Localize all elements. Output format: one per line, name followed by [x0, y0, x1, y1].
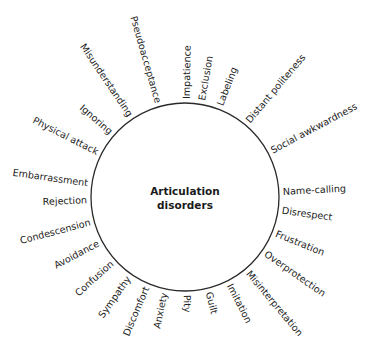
articulation-disorders-diagram: Articulation disorders ImpatienceExclusi… — [0, 0, 369, 358]
label-anxiety: Anxiety — [151, 291, 169, 329]
label-embarrassment: Embarrassment — [12, 167, 89, 189]
central-circle — [91, 103, 279, 291]
label-name-calling: Name-calling — [283, 183, 347, 197]
label-frustration: Frustration — [274, 228, 326, 258]
label-imitation: Imitation — [225, 282, 254, 325]
label-disrespect: Disrespect — [281, 205, 333, 223]
reaction-labels: ImpatienceExclusionLabelingDistant polit… — [12, 15, 359, 338]
center-title-line-1: Articulation — [150, 185, 220, 197]
label-confusion: Confusion — [73, 258, 116, 298]
label-labeling: Labeling — [214, 65, 239, 107]
label-pity: Pity — [182, 295, 193, 313]
label-ignoring: Ignoring — [78, 102, 115, 136]
label-condescension: Condescension — [19, 217, 92, 246]
label-avoidance: Avoidance — [52, 238, 101, 271]
label-impatience: Impatience — [181, 45, 193, 99]
label-discomfort: Discomfort — [121, 285, 152, 338]
label-rejection: Rejection — [43, 194, 88, 207]
label-sympathy: Sympathy — [96, 274, 133, 320]
label-social-awkwardness: Social awkwardness — [269, 100, 359, 155]
label-distant-politeness: Distant politeness — [243, 52, 307, 125]
label-guilt: Guilt — [204, 291, 220, 316]
label-pseudoacceptance: Pseudoacceptance — [128, 15, 163, 105]
center-title-line-2: disorders — [157, 199, 213, 211]
label-exclusion: Exclusion — [196, 55, 215, 101]
